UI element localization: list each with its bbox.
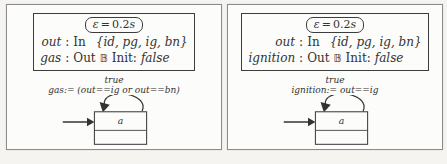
colon: :: [295, 34, 307, 50]
transition-guard: true: [291, 75, 378, 85]
declaration-rest: Out𝔹Init:false: [73, 50, 187, 67]
blackboard-b-type: 𝔹: [334, 52, 342, 65]
transition-action: gas:= (out==ig or out==bn): [48, 85, 180, 95]
self-loop-arrowhead: [100, 102, 110, 112]
epsilon-symbol: ε: [93, 18, 99, 31]
direction-keyword: Out: [73, 51, 95, 65]
variable-name: out: [40, 34, 61, 50]
transition-label: true gas:= (out==ig or out==bn): [48, 75, 180, 95]
colon: :: [61, 50, 73, 67]
self-loop-arc: [104, 95, 143, 112]
epsilon-eq: =: [320, 18, 333, 31]
transition-label: true ignition:= out==ig: [291, 75, 378, 95]
blackboard-b-type: 𝔹: [100, 52, 108, 65]
value-set: {id, pg, ig, bn}: [96, 35, 188, 49]
init-label: Init:: [112, 51, 137, 65]
initial-arrowhead: [308, 118, 315, 126]
variable-name: ignition: [248, 50, 295, 67]
epsilon-value: 0.2: [112, 18, 130, 31]
init-value: false: [375, 51, 404, 65]
interface-box: ε=0.2s out : In{id, pg, ig, bn} gas : Ou…: [33, 13, 194, 71]
self-loop-arrowhead: [321, 102, 331, 112]
init-label: Init:: [346, 51, 371, 65]
epsilon-symbol: ε: [314, 18, 320, 31]
declaration-rest: In{id, pg, ig, bn}: [307, 34, 421, 50]
epsilon-unit: s: [350, 18, 356, 31]
automaton-diagram: a: [279, 95, 391, 149]
value-set: {id, pg, ig, bn}: [330, 35, 422, 49]
declaration-rest: Out𝔹Init:false: [307, 50, 421, 67]
declaration-rest: In{id, pg, ig, bn}: [73, 34, 187, 50]
state-label: a: [118, 115, 124, 126]
panel-ignition: ε=0.2s out : In{id, pg, ig, bn} ignition…: [227, 4, 443, 150]
variable-name: out: [248, 34, 295, 50]
panel-gas: ε=0.2s out : In{id, pg, ig, bn} gas : Ou…: [6, 4, 222, 150]
colon: :: [61, 34, 73, 50]
automata-figure: ε=0.2s out : In{id, pg, ig, bn} gas : Ou…: [0, 0, 447, 164]
init-value: false: [141, 51, 170, 65]
epsilon-value: 0.2: [333, 18, 351, 31]
direction-keyword: Out: [307, 51, 329, 65]
colon: :: [295, 50, 307, 67]
epsilon-badge: ε=0.2s: [85, 17, 143, 33]
epsilon-eq: =: [99, 18, 112, 31]
initial-arrowhead: [87, 118, 94, 126]
transition-action: ignition:= out==ig: [291, 85, 378, 95]
interface-declarations: out : In{id, pg, ig, bn} ignition : Out𝔹…: [248, 34, 421, 67]
interface-box: ε=0.2s out : In{id, pg, ig, bn} ignition…: [241, 13, 428, 71]
interface-declarations: out : In{id, pg, ig, bn} gas : Out𝔹Init:…: [40, 34, 187, 67]
direction-keyword: In: [73, 35, 85, 49]
variable-name: gas: [40, 50, 61, 67]
automaton-diagram: a: [58, 95, 170, 149]
epsilon-badge: ε=0.2s: [306, 17, 364, 33]
epsilon-unit: s: [129, 18, 135, 31]
self-loop-arc: [325, 95, 364, 112]
state-label: a: [339, 115, 345, 126]
direction-keyword: In: [307, 35, 319, 49]
transition-guard: true: [48, 75, 180, 85]
